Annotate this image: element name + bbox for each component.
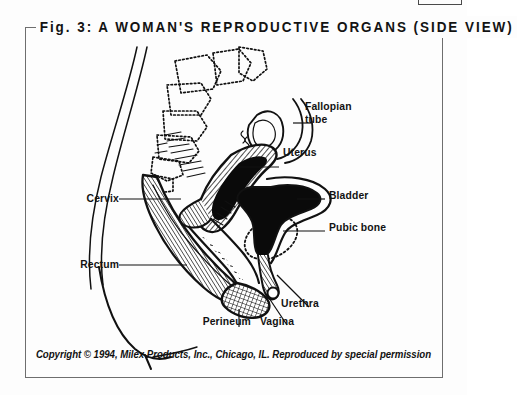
label-bladder: Bladder — [329, 189, 368, 201]
label-urethra: Urethra — [281, 297, 319, 309]
abdominal-wall-outer — [89, 47, 137, 289]
figure-caption: Copyright © 1994, Milex Products, Inc., … — [12, 349, 456, 360]
label-cervix: Cervix — [53, 192, 119, 204]
bladder — [237, 177, 330, 263]
perineum — [222, 283, 270, 318]
abdominal-wall-inner — [101, 47, 147, 285]
label-fallopian-tube-line2: tube — [305, 113, 327, 125]
label-perineum: Perineum — [203, 315, 251, 327]
label-rectum: Rectum — [53, 258, 119, 270]
broad-ligament-shading — [155, 132, 205, 177]
label-fallopian-tube: Fallopian tube — [305, 100, 359, 125]
label-fallopian-tube-line1: Fallopian — [305, 100, 352, 112]
label-vagina: Vagina — [260, 315, 294, 327]
page-above-box-fragment — [418, 0, 462, 5]
label-uterus: Uterus — [283, 146, 317, 158]
buttock-outline — [99, 267, 171, 359]
label-pubic-bone: Pubic bone — [329, 221, 386, 233]
